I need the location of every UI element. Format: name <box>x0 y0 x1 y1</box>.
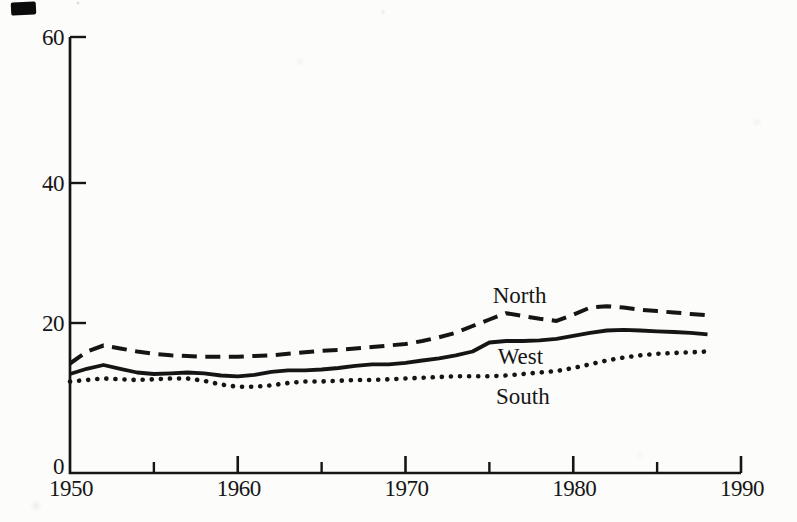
y-axis-label-60: 60 <box>42 25 64 50</box>
x-axis-label-1960: 1960 <box>217 476 261 501</box>
scanned-chart-page: 020406019501960197019801990NorthWestSout… <box>0 0 797 522</box>
series-north-line <box>70 306 708 363</box>
x-axis-label-1980: 1980 <box>552 476 596 501</box>
x-axis-label-1990: 1990 <box>720 476 764 501</box>
series-label-west: West <box>498 344 544 369</box>
x-axis-label-1970: 1970 <box>385 476 429 501</box>
x-axis-label-1950: 1950 <box>49 476 93 501</box>
line-chart: 020406019501960197019801990NorthWestSout… <box>0 0 797 522</box>
series-label-south: South <box>496 384 550 409</box>
series-label-north: North <box>493 283 547 308</box>
axes <box>70 37 741 473</box>
y-axis-label-40: 40 <box>42 171 64 196</box>
y-axis-label-20: 20 <box>42 311 64 336</box>
